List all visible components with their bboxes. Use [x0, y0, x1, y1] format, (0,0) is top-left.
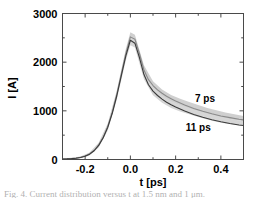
- x-tick-label: -0.2: [76, 163, 95, 175]
- y-axis-label: I [A]: [6, 77, 18, 99]
- uncertainty-band-11ps: [63, 36, 244, 160]
- figure-container: -0.20.00.20.4 0100020003000 7 ps11 ps t …: [0, 0, 255, 198]
- x-axis-label: t [ps]: [140, 176, 167, 188]
- y-tick-label: 0: [51, 154, 57, 166]
- x-tick-label: 0.0: [123, 163, 138, 175]
- x-tick-labels: -0.20.00.20.4: [76, 163, 230, 175]
- series-line-11ps: [63, 40, 244, 159]
- uncertainty-band-7ps: [63, 32, 244, 159]
- y-tick-labels: 0100020003000: [33, 8, 57, 166]
- x-tick-label: 0.4: [213, 163, 229, 175]
- data-series: [63, 37, 244, 159]
- y-tick-label: 1000: [33, 105, 57, 117]
- curve-label-11-ps: 11 ps: [186, 122, 211, 133]
- y-tick-label: 3000: [33, 8, 57, 20]
- uncertainty-bands: [63, 32, 244, 159]
- x-tick-label: 0.2: [168, 163, 183, 175]
- curve-label-7-ps: 7 ps: [195, 93, 215, 104]
- y-tick-label: 2000: [33, 56, 57, 68]
- series-line-7ps: [63, 37, 244, 159]
- current-distribution-chart: -0.20.00.20.4 0100020003000 7 ps11 ps t …: [0, 0, 255, 198]
- figure-caption: Fig. 4. Current distribution versus t at…: [4, 189, 252, 198]
